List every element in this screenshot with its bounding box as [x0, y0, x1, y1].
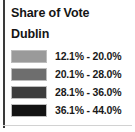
legend-class-row: 28.1% - 36.0% — [11, 83, 135, 101]
legend-frame-left-rule — [3, 0, 5, 128]
legend-color-swatch — [11, 50, 47, 63]
legend-class-list: 12.1% - 20.0% 20.1% - 28.0% 28.1% - 36.0… — [11, 47, 135, 119]
legend-class-row: 36.1% - 44.0% — [11, 101, 135, 119]
legend-color-swatch — [11, 104, 47, 117]
legend-class-label: 28.1% - 36.0% — [55, 86, 121, 98]
legend-class-label: 12.1% - 20.0% — [55, 50, 121, 62]
legend-subtitle: Dublin — [11, 20, 135, 41]
legend-class-label: 20.1% - 28.0% — [55, 68, 121, 80]
map-legend-panel: Share of Vote Dublin 12.1% - 20.0% 20.1%… — [0, 0, 135, 132]
legend-color-swatch — [11, 68, 47, 81]
legend-body: Share of Vote Dublin 12.1% - 20.0% 20.1%… — [11, 0, 135, 132]
legend-title: Share of Vote — [11, 0, 135, 20]
legend-class-row: 20.1% - 28.0% — [11, 65, 135, 83]
legend-class-row: 12.1% - 20.0% — [11, 47, 135, 65]
legend-class-label: 36.1% - 44.0% — [55, 104, 121, 116]
legend-color-swatch — [11, 86, 47, 99]
